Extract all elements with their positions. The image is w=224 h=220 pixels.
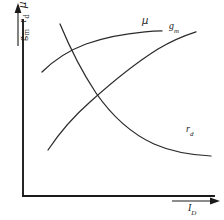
- y-axis-label-text: gm rd μ: [17, 1, 28, 41]
- x-axis-label: ID: [188, 203, 196, 213]
- y-axis-label: gm rd μ: [12, 0, 26, 49]
- curve-gm: [48, 32, 196, 150]
- curve-label-mu: μ: [142, 16, 148, 26]
- curve-label-rd: rd: [186, 124, 193, 134]
- curve-label-mu-symbol: μ: [142, 15, 148, 26]
- curve-label-gm-subscript: m: [174, 27, 179, 35]
- curve-label-gm: gm: [169, 21, 179, 31]
- x-axis-caption-arrow-head: [210, 198, 220, 205]
- x-axis-label-subscript: D: [191, 209, 196, 217]
- plot-canvas: [0, 0, 224, 220]
- figure-root: gm rd μ ID μ gm rd: [0, 0, 224, 220]
- curve-rd: [60, 24, 211, 156]
- curve-mu: [42, 31, 162, 72]
- curve-label-rd-subscript: d: [190, 130, 194, 138]
